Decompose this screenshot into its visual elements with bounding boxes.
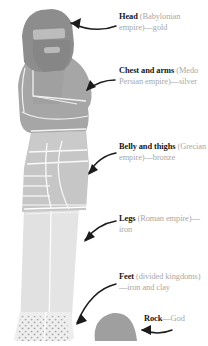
label-chest-heading: Chest and arms: [119, 66, 174, 75]
label-rock: Rock—God: [144, 313, 208, 324]
label-belly-and-thighs: Belly and thighs (Grecian empire)—bronze: [119, 141, 208, 163]
dream-statue-diagram: Head (Babylonian empire)—gold Chest and …: [0, 0, 208, 346]
face-band: [33, 28, 65, 40]
label-feet-heading: Feet: [119, 272, 134, 281]
label-rock-detail: —God: [162, 314, 184, 323]
label-belly-heading: Belly and thighs: [119, 142, 175, 151]
statue-feet: [10, 312, 82, 344]
statue-belly-and-thighs: [22, 131, 89, 212]
label-head-heading: Head: [119, 12, 138, 21]
label-rock-heading: Rock: [144, 314, 162, 323]
label-head: Head (Babylonian empire)—gold: [119, 11, 207, 33]
statue-illustration: [0, 0, 208, 346]
statue-head: [22, 9, 74, 72]
mouth-patch: [44, 47, 60, 54]
label-feet: Feet (divided kingdoms)—iron and clay: [119, 271, 207, 293]
statue-legs: [20, 208, 79, 330]
label-chest-and-arms: Chest and arms (Medo Persian empire)—sil…: [119, 65, 208, 87]
label-legs-heading: Legs: [119, 214, 135, 223]
label-legs: Legs (Roman empire)—iron: [119, 213, 207, 235]
statue-rock: [95, 313, 137, 341]
